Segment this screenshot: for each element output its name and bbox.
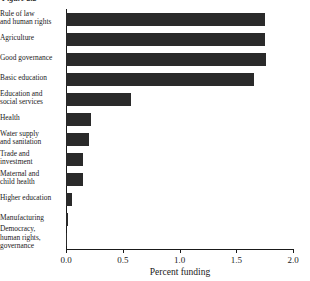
bar-row xyxy=(66,213,293,226)
y-axis-category-label-line: Good governance xyxy=(0,54,62,62)
bar xyxy=(66,113,91,126)
bar xyxy=(66,173,83,186)
bar-row xyxy=(66,233,293,246)
bar-row xyxy=(66,93,293,106)
x-axis-tick-label: 1.0 xyxy=(160,255,200,265)
bar-row xyxy=(66,73,293,86)
bar xyxy=(66,233,67,246)
bar-row xyxy=(66,113,293,126)
y-axis-category-label-line: Manufacturing xyxy=(0,214,62,222)
bar xyxy=(66,93,131,106)
y-axis-category-label: Basic education xyxy=(0,74,62,82)
figure-caption-clipped: Figure 2.2 xyxy=(0,0,310,7)
bar xyxy=(66,53,266,66)
y-axis-category-label: Manufacturing xyxy=(0,214,62,222)
x-axis-title: Percent funding xyxy=(66,267,294,277)
x-axis-tick xyxy=(293,249,294,253)
y-axis-category-label-line: Agriculture xyxy=(0,34,62,42)
y-axis-category-label: Rule of lawand human rights xyxy=(0,10,62,27)
x-axis-tick-label: 2.0 xyxy=(273,255,310,265)
bar-row xyxy=(66,153,293,166)
figure-caption-text: Figure 2.2 xyxy=(2,0,37,3)
x-axis-tick-label: 0.5 xyxy=(103,255,143,265)
bar-row xyxy=(66,13,293,26)
bar-row xyxy=(66,193,293,206)
bar-chart-figure: Figure 2.2 0.00.51.01.52.0 Percent fundi… xyxy=(0,0,310,281)
y-axis-category-label: Good governance xyxy=(0,54,62,62)
bar xyxy=(66,153,83,166)
y-axis-category-label: Trade andinvestment xyxy=(0,150,62,167)
y-axis-category-label-line: and human rights xyxy=(0,18,62,26)
x-axis-tick xyxy=(180,249,181,253)
y-axis-category-label-line: Basic education xyxy=(0,74,62,82)
y-axis-category-label: Health xyxy=(0,114,62,122)
y-axis-category-label-line: social services xyxy=(0,98,62,106)
y-axis-category-label-line: Health xyxy=(0,114,62,122)
y-axis-category-label-line: Higher education xyxy=(0,194,62,202)
bar-row xyxy=(66,133,293,146)
x-axis-tick xyxy=(123,249,124,253)
y-axis-category-label: Water supplyand sanitation xyxy=(0,130,62,147)
bar-row xyxy=(66,53,293,66)
bar-row xyxy=(66,33,293,46)
x-axis-tick xyxy=(66,249,67,253)
y-axis-category-label: Democracy,human rights,governance xyxy=(0,225,62,250)
y-axis-category-label: Higher education xyxy=(0,194,62,202)
bar xyxy=(66,193,72,206)
bar xyxy=(66,213,68,226)
bar xyxy=(66,13,265,26)
x-axis-tick-label: 0.0 xyxy=(46,255,86,265)
y-axis-category-label-line: governance xyxy=(0,242,62,250)
x-axis-tick-label: 1.5 xyxy=(216,255,256,265)
y-axis-category-label: Maternal andchild health xyxy=(0,170,62,187)
plot-area xyxy=(66,9,293,249)
bar xyxy=(66,73,254,86)
y-axis-category-label-line: and sanitation xyxy=(0,138,62,146)
y-axis-category-label-line: child health xyxy=(0,178,62,186)
x-axis-tick xyxy=(236,249,237,253)
bar-row xyxy=(66,173,293,186)
bar xyxy=(66,33,265,46)
y-axis-category-label: Education andsocial services xyxy=(0,90,62,107)
y-axis-category-label: Agriculture xyxy=(0,34,62,42)
y-axis-category-label-line: investment xyxy=(0,158,62,166)
bar xyxy=(66,133,89,146)
